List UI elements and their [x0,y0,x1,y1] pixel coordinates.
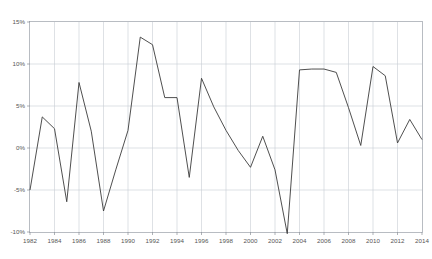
x-tick-label: 1982 [23,237,37,244]
line-chart: 15%10%5%0%-5%-10% 1982198419861988199019… [0,0,432,259]
x-tick-label: 2006 [317,237,331,244]
x-tick-label: 2000 [244,237,258,244]
x-tick-label: 2012 [391,237,405,244]
x-tick-label: 1996 [195,237,209,244]
x-tick-label: 1988 [97,237,111,244]
y-tick-label: -5% [14,186,26,193]
x-tick-label: 2014 [415,237,429,244]
y-tick-label: 15% [13,18,26,25]
x-tick-label: 1990 [121,237,135,244]
x-tick-label: 1998 [219,237,233,244]
x-tick-label: 2010 [366,237,380,244]
chart-canvas: 15%10%5%0%-5%-10% 1982198419861988199019… [0,0,432,259]
x-tick-label: 1992 [146,237,160,244]
y-tick-label: 5% [16,102,25,109]
plot-background [0,0,432,259]
x-axis-tick-labels: 1982198419861988199019921994199619982000… [23,237,429,244]
x-tick-label: 2004 [293,237,307,244]
x-tick-label: 2002 [268,237,282,244]
y-tick-label: -10% [11,228,26,235]
canvas-background [0,0,432,259]
x-tick-label: 1986 [72,237,86,244]
x-tick-label: 1984 [48,237,62,244]
x-tick-label: 1994 [170,237,184,244]
x-tick-label: 2008 [342,237,356,244]
y-tick-label: 10% [13,60,26,67]
y-tick-label: 0% [16,144,25,151]
